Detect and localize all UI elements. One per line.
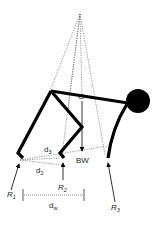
d3-label: d3 xyxy=(44,145,52,155)
bw-label: BW xyxy=(76,156,89,165)
dw-label: dw xyxy=(49,201,57,211)
r3-label: R3 xyxy=(111,203,121,213)
free-body-diagram: G BW d3 d2 R1 R2 R3 dw xyxy=(0,0,156,227)
r1-label: R1 xyxy=(7,190,16,200)
trunk xyxy=(51,91,128,103)
arm xyxy=(108,104,127,158)
body-figure xyxy=(18,91,128,158)
r3-arrow xyxy=(108,163,115,202)
r2-label: R2 xyxy=(58,183,67,193)
head xyxy=(126,89,150,113)
front-leg xyxy=(51,91,82,158)
dw-dimension xyxy=(23,189,84,201)
d2-label: d2 xyxy=(36,166,44,176)
r1-arrow xyxy=(11,164,19,190)
g-label: G xyxy=(78,92,84,101)
